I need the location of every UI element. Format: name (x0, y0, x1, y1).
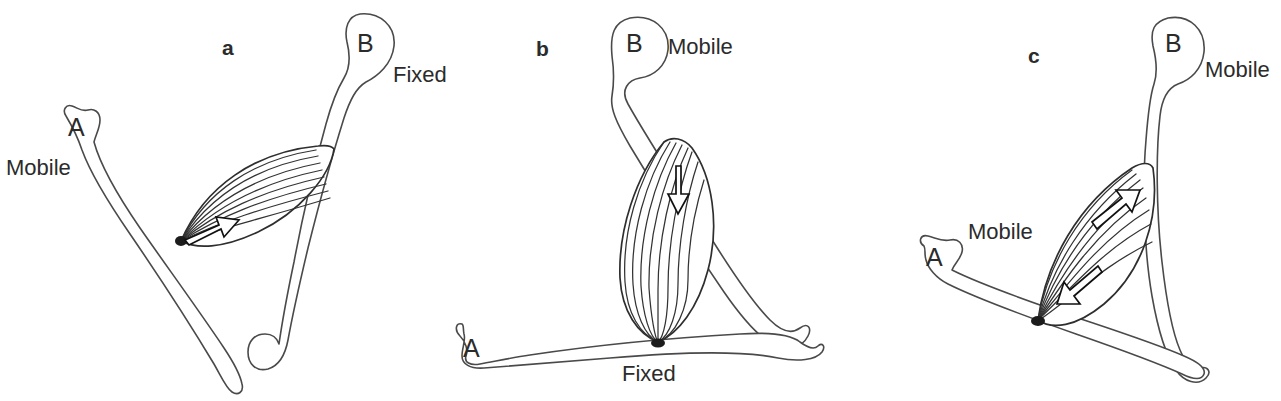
panel-c-bone-b-label: B (1165, 29, 1182, 58)
panel-c-bone-a-label: A (926, 243, 943, 272)
panel-a-letter: a (222, 36, 234, 60)
panel-a: a A B Mobile Fixed (0, 0, 440, 401)
panel-b-bone-b-label: B (626, 29, 643, 58)
panel-b-bone-b-state: Mobile (668, 34, 733, 60)
panel-a-bone-a-state: Mobile (6, 155, 71, 181)
panel-b-bone-a-label: A (463, 334, 480, 363)
panel-c-bone-b-state: Mobile (1205, 57, 1270, 83)
bone-a-outline (64, 106, 242, 394)
panel-a-bone-b-state: Fixed (393, 62, 447, 88)
figure-root: a A B Mobile Fixed (0, 0, 1281, 401)
insertion-node (1031, 316, 1045, 326)
panel-c-letter: c (1028, 44, 1040, 68)
panel-b-bone-a-state: Fixed (622, 361, 676, 387)
panel-b-drawing (440, 0, 860, 401)
panel-c-bone-a-state: Mobile (968, 219, 1033, 245)
panel-a-bone-b-label: B (357, 29, 374, 58)
muscle-belly (1038, 164, 1154, 326)
panel-b-letter: b (536, 37, 549, 61)
panel-c: c B A Mobile Mobile (860, 0, 1281, 401)
insertion-node (651, 339, 665, 348)
panel-b: b B A Mobile Fixed (440, 0, 860, 401)
panel-a-drawing (0, 0, 440, 401)
panel-a-bone-a-label: A (68, 113, 85, 142)
